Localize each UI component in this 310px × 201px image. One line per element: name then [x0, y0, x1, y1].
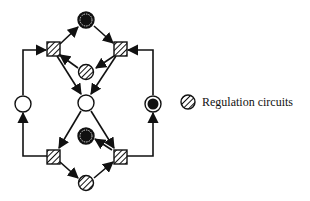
edge	[60, 162, 78, 178]
legend-label: Regulation circuits	[202, 95, 293, 110]
legend: Regulation circuits	[180, 94, 293, 110]
edge	[59, 111, 81, 148]
edge	[91, 111, 114, 148]
edge	[23, 113, 47, 156]
edge	[127, 113, 153, 156]
edge	[23, 50, 46, 95]
edge	[94, 26, 113, 43]
bottom-right-rect	[114, 150, 127, 164]
bottom-left-rect	[47, 150, 60, 164]
top-right-rect	[114, 42, 127, 56]
hatched-circle-icon	[180, 94, 196, 110]
top-left-rect	[47, 42, 60, 56]
top-regulation-circle	[79, 65, 94, 80]
center-node	[78, 95, 94, 111]
edge	[60, 27, 78, 44]
edge	[128, 50, 153, 95]
edge	[91, 56, 116, 94]
bottom-regulation-circle	[79, 176, 94, 191]
left-node	[15, 96, 31, 112]
edge	[94, 162, 113, 178]
